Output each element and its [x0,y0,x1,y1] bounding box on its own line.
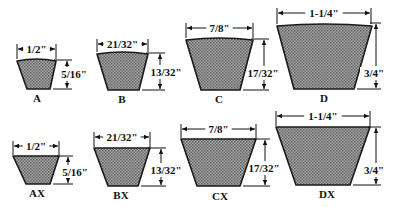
width-label: 7/8" [208,123,228,135]
width-label: 1/2" [26,140,46,152]
belt-section-c: 7/8"17/32"C [186,22,279,105]
section-name-label: D [320,92,328,104]
section-name-label: CX [212,190,228,202]
section-name-label: BX [113,189,128,201]
belt-section-b: 21/32"13/32"B [97,38,182,105]
height-label: 5/16" [62,166,88,178]
width-label: 1/2" [26,43,46,55]
section-name-label: DX [319,188,335,200]
belt-shape [94,148,150,186]
height-label: 3/4" [364,67,384,79]
belt-shape [13,156,59,184]
height-label: 3/4" [364,164,384,176]
width-label: 21/32" [106,131,137,143]
belt-section-d: 1-1/4"3/4"D [277,7,388,104]
belt-section-cx: 7/8"17/32"CX [181,123,280,202]
height-label: 13/32" [150,164,181,176]
belt-shape [181,139,256,186]
width-label: 1-1/4" [308,110,337,122]
width-label: 1-1/4" [309,7,338,19]
section-name-label: AX [29,187,45,199]
section-name-label: A [33,92,41,104]
belt-section-a: 1/2"5/16"A [17,43,88,104]
belt-shape [186,38,253,90]
height-label: 5/16" [61,68,87,80]
width-label: 7/8" [209,22,229,34]
belt-shape [17,59,56,89]
diagram-canvas: 1/2"5/16"A21/32"13/32"B7/8"17/32"C1-1/4"… [0,0,397,207]
belt-cross-section-diagram: 1/2"5/16"A21/32"13/32"B7/8"17/32"C1-1/4"… [0,0,397,207]
width-label: 21/32" [107,38,138,50]
section-name-label: C [215,93,223,105]
height-label: 13/32" [150,66,181,78]
belt-shape [276,127,370,185]
belt-section-ax: 1/2"5/16"AX [13,140,89,199]
height-label: 17/32" [247,67,278,79]
belt-section-dx: 1-1/4"3/4"DX [276,110,388,200]
height-label: 17/32" [248,162,279,174]
belt-shape [277,24,372,89]
belt-shape [97,52,148,90]
section-name-label: B [118,93,126,105]
belt-section-bx: 21/32"13/32"BX [94,131,182,201]
